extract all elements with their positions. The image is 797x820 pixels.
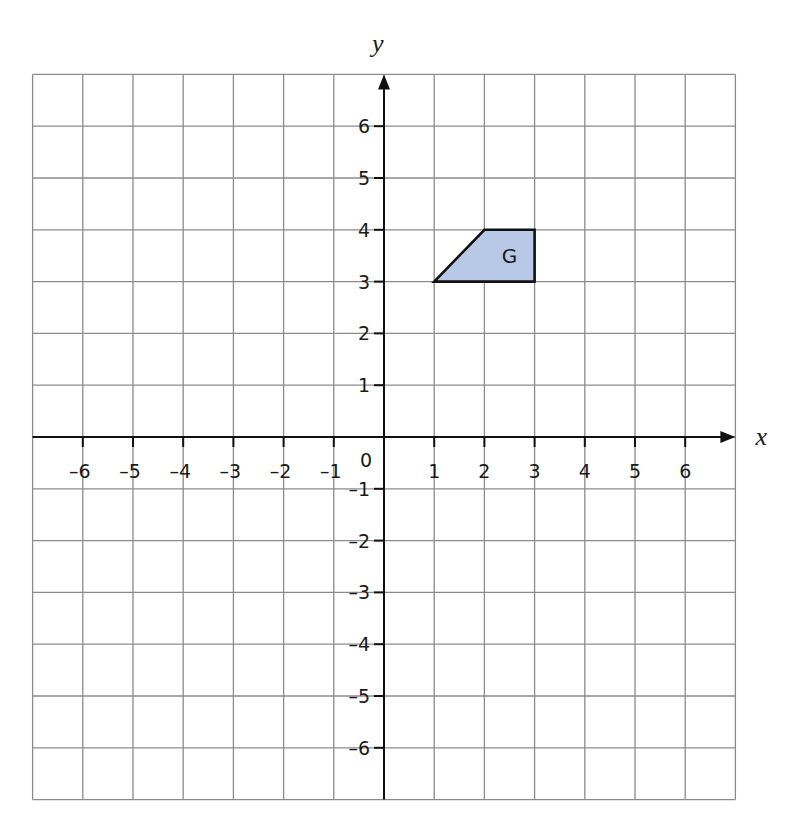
y-axis-label: y	[369, 29, 384, 58]
y-axis-arrow-icon	[378, 74, 390, 89]
origin-label: 0	[360, 449, 372, 471]
shape-label: G	[502, 244, 518, 268]
coordinate-grid-chart: G –6–5–4–3–2–1123456654321–1–2–3–4–5–6 x…	[0, 0, 797, 820]
y-tick-label: 4	[358, 219, 370, 241]
y-tick-label: 5	[358, 167, 370, 189]
x-tick-label: 5	[629, 460, 641, 482]
x-tick-label: 6	[679, 460, 691, 482]
x-axis-label: x	[754, 422, 767, 451]
x-tick-label: –6	[69, 460, 91, 482]
x-tick-label: –2	[270, 460, 292, 482]
y-tick-label: 2	[358, 322, 370, 344]
y-tick-label: 1	[358, 374, 370, 396]
x-tick-label: –4	[169, 460, 191, 482]
y-tick-label: 6	[358, 115, 370, 137]
x-tick-label: 1	[428, 460, 440, 482]
x-tick-label: 4	[579, 460, 591, 482]
y-tick-label: –4	[348, 633, 370, 655]
x-tick-label: 3	[529, 460, 541, 482]
axes: –6–5–4–3–2–1123456654321–1–2–3–4–5–6 x y…	[33, 29, 768, 799]
x-tick-label: 2	[478, 460, 490, 482]
x-axis-arrow-icon	[720, 431, 735, 443]
y-tick-label: –6	[348, 737, 370, 759]
shapes-layer: G	[434, 230, 534, 282]
x-tick-label: –1	[320, 460, 342, 482]
y-tick-label: –3	[348, 581, 370, 603]
shape-g	[434, 230, 534, 282]
y-tick-label: 3	[358, 271, 370, 293]
y-tick-label: –1	[348, 478, 370, 500]
y-tick-label: –5	[348, 685, 370, 707]
x-tick-label: –3	[220, 460, 242, 482]
x-tick-label: –5	[119, 460, 141, 482]
y-tick-label: –2	[348, 530, 370, 552]
